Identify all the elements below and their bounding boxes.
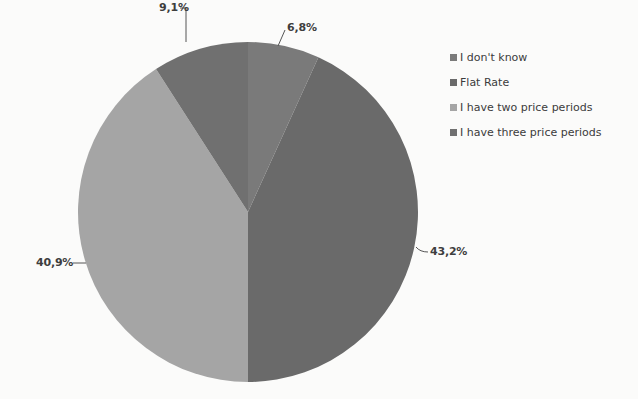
legend-swatch-icon	[450, 79, 457, 86]
data-label-three-periods: 9,1%	[159, 1, 189, 14]
data-label-dont-know: 6,8%	[287, 21, 317, 34]
leader-line-dont-know	[278, 30, 285, 46]
legend-item-dont-know: I don't know	[450, 45, 601, 70]
legend-label: I have two price periods	[460, 101, 592, 114]
legend-label: I have three price periods	[460, 126, 601, 139]
legend-item-flat-rate: Flat Rate	[450, 70, 601, 95]
legend-swatch-icon	[450, 129, 457, 136]
leader-line-flat-rate	[416, 247, 428, 252]
legend-item-two-periods: I have two price periods	[450, 95, 601, 120]
legend-swatch-icon	[450, 54, 457, 61]
data-label-two-periods: 40,9%	[36, 256, 73, 269]
legend-label: Flat Rate	[460, 76, 509, 89]
legend-label: I don't know	[460, 51, 527, 64]
pie-chart: 9,1% 6,8% 43,2% 40,9% I don't know Flat …	[0, 0, 638, 399]
legend-swatch-icon	[450, 104, 457, 111]
legend-item-three-periods: I have three price periods	[450, 120, 601, 145]
chart-legend: I don't know Flat Rate I have two price …	[450, 45, 601, 145]
data-label-flat-rate: 43,2%	[430, 245, 467, 258]
